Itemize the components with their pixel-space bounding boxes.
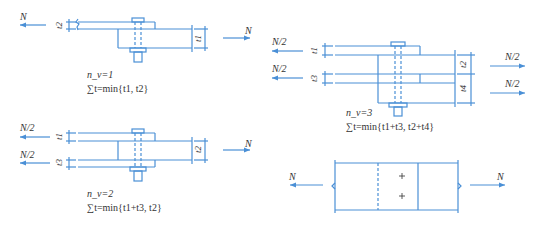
formula-text: ∑t=min{t1, t2} bbox=[87, 82, 148, 96]
force-label: N/2 bbox=[272, 64, 286, 74]
force-label: N/2 bbox=[505, 79, 519, 89]
force-label: N/2 bbox=[505, 52, 519, 62]
thickness-label: t3 bbox=[310, 75, 319, 82]
nv-text: n_v=3 bbox=[346, 106, 434, 120]
thickness-label: t1 bbox=[310, 47, 319, 54]
thickness-label: t1 bbox=[55, 133, 64, 140]
formula-text: ∑t=min{t1+t3, t2} bbox=[87, 201, 162, 215]
formula-text: ∑t=min{t1+t3, t2+t4} bbox=[346, 120, 434, 134]
force-label: N bbox=[245, 139, 252, 149]
force-label: N bbox=[245, 26, 252, 36]
diagram4-drawing bbox=[290, 160, 505, 213]
diagram-canvas bbox=[0, 0, 536, 225]
nv-text: n_v=2 bbox=[87, 187, 162, 201]
formula-block: n_v=3 ∑t=min{t1+t3, t2+t4} bbox=[346, 106, 434, 133]
force-label: N/2 bbox=[20, 150, 34, 160]
thickness-label: t1 bbox=[194, 35, 203, 42]
thickness-label: t3 bbox=[55, 159, 64, 166]
formula-block: n_v=1 ∑t=min{t1, t2} bbox=[87, 68, 148, 95]
thickness-label: t2 bbox=[459, 61, 468, 68]
thickness-label: t4 bbox=[459, 85, 468, 92]
force-label: N bbox=[20, 12, 27, 22]
force-label: N/2 bbox=[20, 123, 34, 133]
bolt-marks bbox=[399, 173, 405, 199]
thickness-label: t2 bbox=[55, 22, 64, 29]
force-label: N/2 bbox=[272, 37, 286, 47]
force-label: N bbox=[497, 172, 504, 182]
nv-text: n_v=1 bbox=[87, 68, 148, 82]
thickness-label: t2 bbox=[194, 146, 203, 153]
force-label: N bbox=[289, 172, 296, 182]
formula-block: n_v=2 ∑t=min{t1+t3, t2} bbox=[87, 187, 162, 214]
